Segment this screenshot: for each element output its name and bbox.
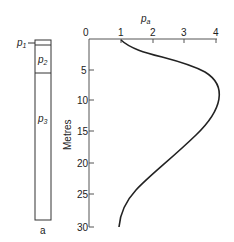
y-tick-10: 10 [77,95,89,106]
x-tick-0: 0 [83,27,89,38]
y-tick-20: 20 [77,158,89,169]
x-tick-1: 1 [118,27,124,38]
resistivity-diagram: p1 p2 p3 a 0 1 2 3 4 pa 5 10 15 20 25 30… [0,0,234,242]
y-axis-title: Metres [62,119,73,150]
x-tick-3: 3 [181,27,187,38]
y-tick-30: 30 [77,222,89,233]
chart-axes: 0 1 2 3 4 pa 5 10 15 20 25 30 Metres [62,13,219,233]
y-tick-15: 15 [77,126,89,137]
resistivity-curve [119,40,219,227]
layer-p1-label: p1 [16,37,27,49]
layer-p2-label: p2 [37,54,48,66]
x-tick-4: 4 [213,27,219,38]
layer-p3-label: p3 [37,113,48,125]
x-axis-title: pa [140,13,151,25]
y-tick-25: 25 [77,189,89,200]
x-tick-2: 2 [150,27,156,38]
layer-column: p1 p2 p3 a [16,37,51,236]
y-tick-5: 5 [81,65,87,76]
column-label: a [40,225,46,236]
